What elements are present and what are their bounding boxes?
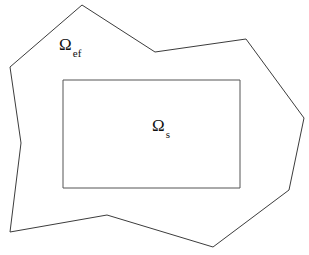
- label-omega-ef: Ωef: [59, 36, 81, 56]
- omega-glyph-outer: Ω: [59, 35, 72, 54]
- omega-subscript-inner: s: [166, 128, 170, 140]
- omega-subscript-outer: ef: [73, 47, 82, 59]
- figure-canvas: Ωef Ωs: [0, 0, 309, 255]
- label-omega-s: Ωs: [152, 117, 169, 137]
- omega-glyph-inner: Ω: [152, 116, 165, 135]
